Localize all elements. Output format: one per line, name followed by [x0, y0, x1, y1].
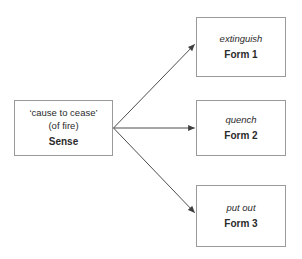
form-3-label: Form 3 — [224, 217, 257, 230]
sense-label: Sense — [49, 135, 78, 148]
sense-gloss: ‘cause to cease’ — [29, 107, 97, 120]
form-1-word: extinguish — [220, 33, 263, 46]
node-sense: ‘cause to cease’ (of fire) Sense — [14, 100, 113, 156]
edge-sense-to-form-3 — [114, 128, 195, 213]
node-form-1: extinguish Form 1 — [196, 17, 286, 77]
sense-qualifier: (of fire) — [48, 120, 78, 133]
form-2-label: Form 2 — [224, 129, 257, 142]
node-form-3: put out Form 3 — [196, 185, 286, 247]
node-form-2: quench Form 2 — [196, 100, 286, 156]
form-2-word: quench — [225, 114, 256, 127]
form-1-label: Form 1 — [224, 48, 257, 61]
form-3-word: put out — [226, 202, 255, 215]
edge-sense-to-form-1 — [114, 45, 195, 129]
sense-to-form-diagram: ‘cause to cease’ (of fire) Sense extingu… — [0, 0, 302, 259]
